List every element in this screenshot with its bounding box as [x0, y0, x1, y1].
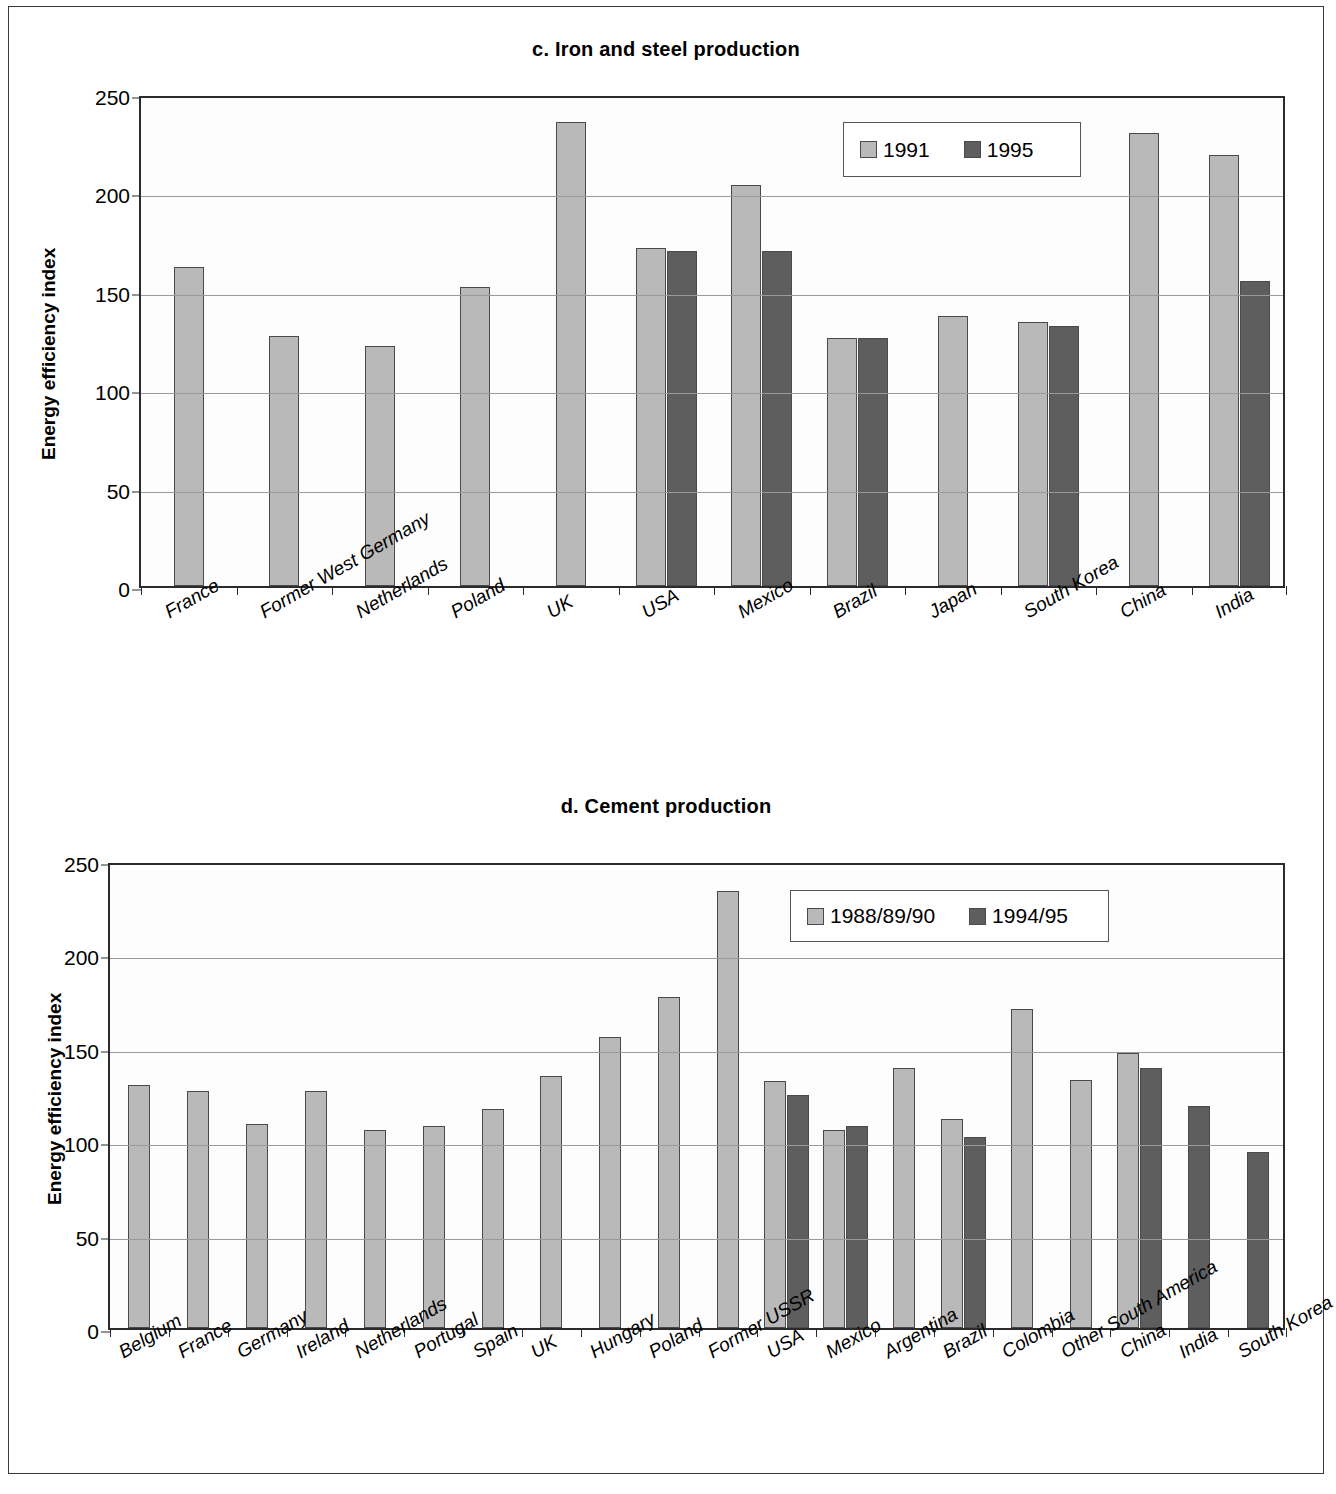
bar	[717, 891, 739, 1328]
y-axis-tick-mark	[101, 1051, 110, 1052]
y-axis-tick-label: 250	[95, 86, 130, 110]
bar	[187, 1091, 209, 1328]
gridline	[141, 295, 1283, 296]
x-axis-tick-mark	[522, 1328, 523, 1337]
gridline	[141, 196, 1283, 197]
x-axis-tick-mark	[905, 586, 906, 595]
x-axis-tick-mark	[993, 1328, 994, 1337]
y-axis-tick-mark	[101, 1145, 110, 1146]
x-axis-tick-mark	[581, 1328, 582, 1337]
x-axis-tick-mark	[619, 586, 620, 595]
bar	[764, 1081, 786, 1328]
bar	[1018, 322, 1048, 586]
bar	[636, 248, 666, 586]
legend-item: 1991	[860, 138, 930, 162]
y-axis-tick-mark	[132, 590, 141, 591]
x-axis-tick-mark	[1286, 586, 1287, 595]
bar	[941, 1119, 963, 1328]
gridline	[110, 1052, 1283, 1053]
bar	[1247, 1152, 1269, 1328]
bar	[305, 1091, 327, 1328]
bar	[938, 316, 968, 586]
legend-item-label: 1995	[987, 138, 1034, 162]
gridline	[141, 393, 1283, 394]
panel-c-legend: 19911995	[843, 122, 1081, 177]
panel-c-y-axis-label: Energy efficiency index	[38, 248, 60, 460]
bar	[1070, 1080, 1092, 1328]
bar	[460, 287, 490, 586]
x-axis-tick-mark	[816, 1328, 817, 1337]
bar	[823, 1130, 845, 1328]
legend-item: 1995	[964, 138, 1034, 162]
x-axis-tick-mark	[237, 586, 238, 595]
y-axis-tick-mark	[132, 98, 141, 99]
bar	[893, 1068, 915, 1328]
panel-c-bars-layer	[141, 98, 1283, 586]
y-axis-tick-label: 100	[95, 381, 130, 405]
bar	[1129, 133, 1159, 586]
legend-swatch-icon	[807, 908, 824, 925]
panel-c-plot-area: 050100150200250	[139, 96, 1285, 588]
x-axis-tick-mark	[810, 586, 811, 595]
bar	[964, 1137, 986, 1328]
bar	[556, 122, 586, 586]
gridline	[110, 1145, 1283, 1146]
gridline	[141, 492, 1283, 493]
x-axis-tick-mark	[1096, 586, 1097, 595]
bar	[658, 997, 680, 1328]
bar	[482, 1109, 504, 1328]
x-axis-tick-mark	[1169, 1328, 1170, 1337]
y-axis-tick-mark	[132, 294, 141, 295]
y-axis-tick-label: 50	[107, 480, 130, 504]
bar	[1011, 1009, 1033, 1328]
y-axis-tick-label: 0	[118, 578, 130, 602]
y-axis-tick-mark	[132, 196, 141, 197]
bar	[174, 267, 204, 586]
y-axis-tick-mark	[132, 393, 141, 394]
bar	[599, 1037, 621, 1328]
y-axis-tick-mark	[101, 958, 110, 959]
y-axis-tick-mark	[101, 865, 110, 866]
bar	[667, 251, 697, 586]
y-axis-tick-label: 150	[64, 1040, 99, 1064]
legend-swatch-icon	[860, 141, 877, 158]
bar	[1117, 1053, 1139, 1328]
x-axis-tick-mark	[1001, 586, 1002, 595]
legend-item: 1994/95	[969, 904, 1068, 928]
y-axis-tick-mark	[101, 1238, 110, 1239]
x-axis-tick-mark	[428, 586, 429, 595]
y-axis-tick-mark	[132, 491, 141, 492]
y-axis-tick-label: 50	[76, 1227, 99, 1251]
legend-swatch-icon	[964, 141, 981, 158]
y-axis-tick-label: 0	[87, 1320, 99, 1344]
gridline	[110, 958, 1283, 959]
bar	[731, 185, 761, 586]
y-axis-tick-mark	[101, 1332, 110, 1333]
legend-item-label: 1994/95	[992, 904, 1068, 928]
legend-item-label: 1991	[883, 138, 930, 162]
y-axis-tick-label: 100	[64, 1133, 99, 1157]
panel-d-legend: 1988/89/901994/95	[790, 890, 1109, 942]
bar	[364, 1130, 386, 1328]
panel-d-y-axis-label: Energy efficiency index	[44, 993, 66, 1205]
bar	[1049, 326, 1079, 586]
x-axis-tick-mark	[141, 586, 142, 595]
x-axis-tick-mark	[1228, 1328, 1229, 1337]
panel-d-title: d. Cement production	[0, 795, 1332, 818]
x-axis-tick-mark	[332, 586, 333, 595]
bar	[128, 1085, 150, 1328]
y-axis-tick-label: 250	[64, 853, 99, 877]
legend-item-label: 1988/89/90	[830, 904, 935, 928]
x-axis-tick-mark	[714, 586, 715, 595]
bar	[827, 338, 857, 586]
x-axis-tick-mark	[110, 1328, 111, 1337]
gridline	[110, 1239, 1283, 1240]
legend-item: 1988/89/90	[807, 904, 935, 928]
y-axis-tick-label: 150	[95, 283, 130, 307]
y-axis-tick-label: 200	[64, 946, 99, 970]
bar	[246, 1124, 268, 1328]
x-axis-tick-mark	[523, 586, 524, 595]
panel-c-title: c. Iron and steel production	[0, 38, 1332, 61]
bar	[1240, 281, 1270, 586]
bar	[540, 1076, 562, 1328]
